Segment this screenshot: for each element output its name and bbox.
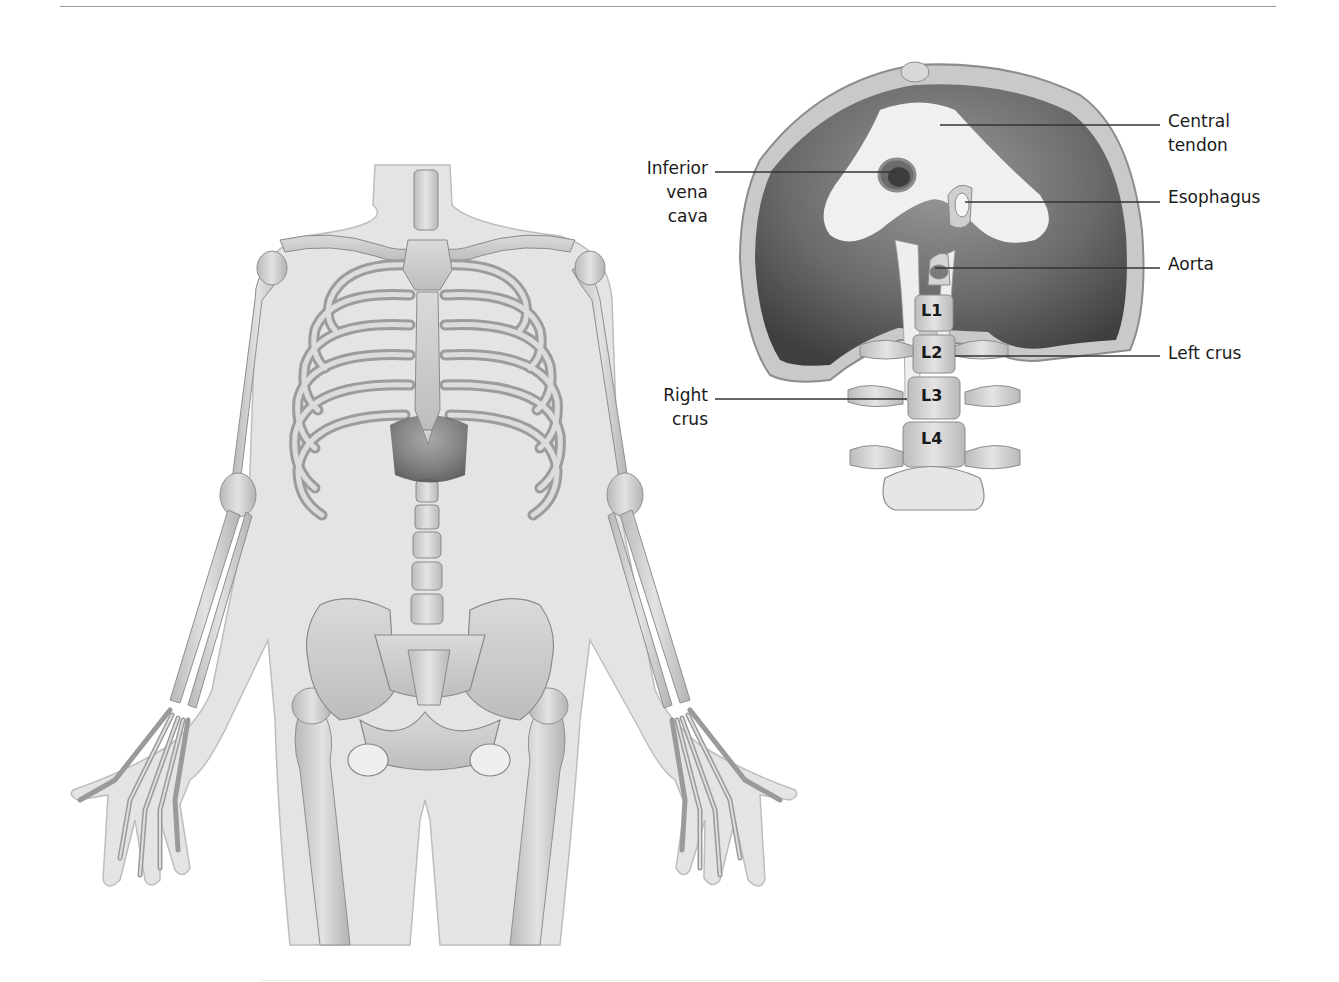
label-line: cava [620, 204, 708, 228]
label-central-tendon: Central tendon [1168, 109, 1230, 157]
label-right-crus: Right crus [630, 383, 708, 431]
label-line: Right [630, 383, 708, 407]
label-line: Inferior [620, 156, 708, 180]
label-line: tendon [1168, 133, 1230, 157]
label-line: Central [1168, 109, 1230, 133]
vertebra-label-l3: L3 [921, 386, 942, 405]
label-left-crus: Left crus [1168, 341, 1241, 365]
label-line: Left crus [1168, 341, 1241, 365]
vertebra-label-l2: L2 [921, 343, 942, 362]
label-line: Esophagus [1168, 185, 1260, 209]
skeleton-illustration [0, 0, 1339, 982]
label-line: Aorta [1168, 252, 1214, 276]
label-aorta: Aorta [1168, 252, 1214, 276]
label-line: vena [620, 180, 708, 204]
label-line: crus [630, 407, 708, 431]
label-esophagus: Esophagus [1168, 185, 1260, 209]
vertebra-label-l1: L1 [921, 301, 942, 320]
vertebra-label-l4: L4 [921, 429, 942, 448]
label-inferior-vena-cava: Inferior vena cava [620, 156, 708, 228]
